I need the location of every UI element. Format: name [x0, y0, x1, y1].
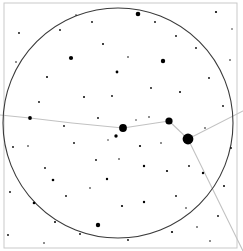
field-star-10 [33, 202, 36, 205]
constellation-line-southeastern-branch [188, 139, 243, 251]
horizon-circle [3, 8, 233, 238]
field-star-59 [229, 59, 231, 61]
field-star-5 [215, 11, 217, 13]
field-star-22 [54, 221, 56, 223]
field-star-0 [136, 12, 141, 17]
field-star-48 [204, 127, 206, 129]
field-star-30 [59, 29, 61, 31]
field-star-52 [118, 158, 120, 160]
field-star-63 [196, 226, 198, 228]
field-star-40 [175, 35, 177, 37]
field-star-7 [12, 146, 14, 148]
field-star-53 [160, 142, 162, 144]
field-star-4 [96, 223, 100, 227]
star-beta-node [165, 117, 172, 124]
field-star-9 [52, 179, 55, 182]
field-star-18 [202, 172, 204, 174]
field-star-25 [171, 231, 173, 233]
field-star-11 [73, 142, 75, 144]
field-star-64 [231, 28, 232, 29]
field-star-56 [43, 242, 45, 244]
field-star-54 [185, 207, 187, 209]
field-star-12 [95, 159, 97, 161]
field-star-55 [209, 240, 211, 242]
field-star-61 [127, 56, 129, 58]
star-chart-canvas [0, 0, 243, 251]
field-star-49 [27, 145, 29, 147]
field-star-15 [139, 145, 141, 147]
field-star-31 [91, 21, 93, 23]
field-star-62 [75, 14, 76, 15]
field-star-39 [195, 47, 197, 49]
field-star-21 [175, 195, 177, 197]
field-star-17 [166, 170, 168, 172]
field-star-37 [150, 87, 152, 89]
star-epsilon-sub [114, 134, 117, 137]
field-star-36 [111, 95, 113, 97]
field-star-28 [7, 234, 9, 236]
field-star-2 [69, 56, 73, 60]
field-star-38 [179, 91, 181, 93]
field-star-46 [97, 117, 99, 119]
field-star-14 [143, 165, 145, 167]
star-gamma-node [119, 124, 127, 132]
field-star-27 [9, 191, 11, 193]
constellation-line-eastern-branch [188, 111, 243, 139]
field-star-35 [83, 96, 85, 98]
star-delta-chain [28, 116, 32, 120]
field-star-6 [230, 147, 232, 149]
field-star-43 [222, 105, 224, 107]
field-star-57 [135, 119, 136, 120]
field-star-41 [154, 21, 156, 23]
field-star-47 [148, 116, 150, 118]
field-star-1 [161, 59, 165, 63]
field-star-60 [15, 61, 17, 63]
star-alpha-primary [183, 134, 194, 145]
field-star-20 [143, 201, 145, 203]
field-star-29 [18, 32, 20, 34]
field-star-34 [38, 101, 40, 103]
field-star-23 [79, 233, 81, 235]
field-star-13 [106, 178, 108, 180]
field-star-32 [102, 43, 104, 45]
star-chart-svg [0, 0, 243, 251]
field-star-33 [46, 76, 48, 78]
field-star-16 [188, 165, 190, 167]
field-star-45 [63, 125, 65, 127]
field-star-44 [223, 185, 225, 187]
field-star-58 [107, 139, 108, 140]
field-star-50 [65, 195, 67, 197]
field-star-51 [89, 187, 91, 189]
field-star-24 [127, 239, 129, 241]
field-star-8 [44, 167, 46, 169]
field-star-26 [217, 215, 219, 217]
constellation-lines [0, 111, 243, 251]
field-star-19 [121, 205, 123, 207]
field-star-3 [116, 71, 119, 74]
field-star-42 [208, 77, 210, 79]
